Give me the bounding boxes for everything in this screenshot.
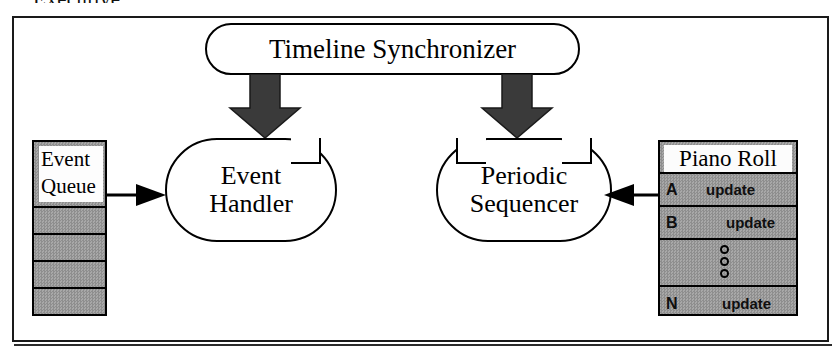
frame-shadow bbox=[14, 344, 832, 346]
piano-roll-row[interactable]: A update bbox=[660, 174, 796, 207]
event-queue-label-line2: Queue bbox=[41, 173, 103, 200]
event-queue-slot[interactable] bbox=[34, 235, 105, 262]
vertical-ellipsis-dot-icon bbox=[720, 245, 729, 254]
node-event-handler-corner-notch-icon bbox=[291, 138, 321, 164]
piano-roll-ellipsis-cell bbox=[660, 240, 796, 287]
piano-roll-row-action: update bbox=[722, 295, 771, 312]
piano-roll-row-action: update bbox=[706, 181, 755, 198]
piano-roll-row[interactable]: B update bbox=[660, 207, 796, 240]
node-event-handler-label-line2: Handler bbox=[209, 190, 293, 218]
node-event-handler[interactable]: Event Handler bbox=[165, 138, 337, 242]
node-timeline-synchronizer-label: Timeline Synchronizer bbox=[269, 35, 516, 64]
piano-roll-title: Piano Roll bbox=[664, 145, 792, 172]
node-periodic-sequencer-label-line1: Periodic bbox=[470, 162, 578, 190]
arrow-piano-roll-to-periodic-sequencer bbox=[604, 181, 664, 209]
event-queue-stack[interactable]: Event Queue bbox=[32, 140, 107, 316]
vertical-ellipsis-dot-icon bbox=[720, 257, 729, 266]
arrow-event-queue-to-event-handler bbox=[106, 181, 168, 209]
piano-roll-row-key: N bbox=[666, 295, 678, 313]
piano-roll-stack[interactable]: Piano Roll A update B update N update bbox=[658, 140, 798, 316]
piano-roll-row-key: A bbox=[666, 181, 678, 199]
node-periodic-sequencer[interactable]: Periodic Sequencer bbox=[436, 138, 612, 242]
figure-caption-executive: Executive bbox=[33, 0, 121, 3]
node-timeline-synchronizer[interactable]: Timeline Synchronizer bbox=[205, 23, 580, 75]
node-periodic-sequencer-corner-notch-left-icon bbox=[456, 138, 486, 164]
piano-roll-row-action: update bbox=[726, 214, 775, 231]
event-queue-label-cell: Event Queue bbox=[34, 142, 105, 208]
node-periodic-sequencer-corner-notch-right-icon bbox=[562, 138, 592, 164]
piano-roll-row[interactable]: N update bbox=[660, 287, 796, 320]
node-event-handler-label-line1: Event bbox=[209, 162, 293, 190]
node-periodic-sequencer-label-line2: Sequencer bbox=[470, 190, 578, 218]
event-queue-label-box: Event Queue bbox=[39, 146, 103, 202]
event-queue-slot[interactable] bbox=[34, 262, 105, 289]
piano-roll-row-key: B bbox=[666, 214, 678, 232]
arrow-timeline-to-periodic-sequencer bbox=[480, 74, 560, 140]
event-queue-label-line1: Event bbox=[41, 146, 103, 173]
arrow-timeline-to-event-handler bbox=[228, 74, 308, 140]
piano-roll-title-cell: Piano Roll bbox=[660, 142, 796, 174]
event-queue-slot[interactable] bbox=[34, 208, 105, 235]
event-queue-slot[interactable] bbox=[34, 289, 105, 316]
vertical-ellipsis-dot-icon bbox=[720, 269, 729, 278]
